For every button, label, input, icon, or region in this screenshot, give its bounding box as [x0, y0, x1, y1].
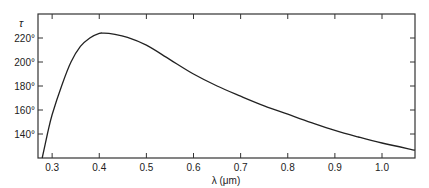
x-tick-label: 0.6	[187, 162, 201, 173]
x-tick-label: 0.8	[281, 162, 295, 173]
x-tick-label: 0.4	[92, 162, 106, 173]
y-tick-label: 180°	[14, 81, 35, 92]
x-tick-label: 0.5	[139, 162, 153, 173]
x-tick-label: 0.7	[234, 162, 248, 173]
x-tick-label: 0.9	[328, 162, 342, 173]
x-axis-ticks: 0.30.40.50.60.70.80.91.0	[45, 14, 389, 173]
data-curve	[42, 33, 415, 158]
y-tick-label: 220°	[14, 33, 35, 44]
y-axis-label: τ	[19, 17, 24, 29]
y-tick-label: 200°	[14, 57, 35, 68]
chart: 0.30.40.50.60.70.80.91.0 140°160°180°200…	[0, 0, 429, 188]
x-tick-label: 1.0	[375, 162, 389, 173]
y-tick-label: 160°	[14, 105, 35, 116]
x-axis-label: λ (μm)	[212, 175, 241, 186]
y-axis-ticks: 140°160°180°200°220°	[14, 33, 415, 140]
x-tick-label: 0.3	[45, 162, 59, 173]
y-tick-label: 140°	[14, 129, 35, 140]
